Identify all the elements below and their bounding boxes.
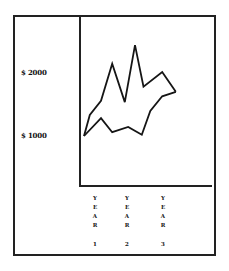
y-tick-2000: $ 2000 (21, 68, 47, 77)
x-tick-letter: A (122, 212, 132, 221)
x-tick-letter: A (90, 212, 100, 221)
x-tick-year-2: Y E A R 2 (122, 194, 132, 249)
x-tick-letter: R (90, 221, 100, 230)
series-lower-line (84, 92, 176, 136)
x-tick-letter: Y (158, 194, 168, 203)
x-tick-letter: E (122, 203, 132, 212)
x-tick-year-1: Y E A R 1 (90, 194, 100, 249)
x-tick-letter: E (158, 203, 168, 212)
x-tick-letter: E (90, 203, 100, 212)
x-tick-letter: R (158, 221, 168, 230)
x-tick-letter: A (158, 212, 168, 221)
y-tick-1000: $ 1000 (21, 131, 47, 140)
x-tick-letter: Y (90, 194, 100, 203)
x-tick-year-3: Y E A R 3 (158, 194, 168, 249)
x-tick-letter: R (122, 221, 132, 230)
x-tick-number: 3 (158, 240, 168, 249)
x-tick-letter: Y (122, 194, 132, 203)
x-tick-number: 1 (90, 240, 100, 249)
x-tick-number: 2 (122, 240, 132, 249)
